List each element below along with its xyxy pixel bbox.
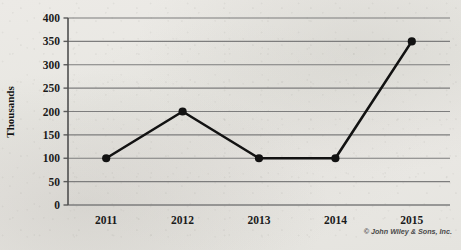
x-axis-tick-label: 2014 [324,214,347,226]
y-axis-tick-label: 50 [49,176,61,188]
y-axis-tick-label: 400 [43,12,61,24]
x-axis-tick-label: 2012 [171,214,194,226]
data-point-marker [331,154,339,162]
data-point-markers [102,37,416,162]
line-chart: 050100150200250300350400 201120122013201… [0,0,461,250]
y-axis-tick-label: 100 [43,152,61,164]
y-axis-tick-label: 350 [43,35,61,47]
data-line [106,41,412,158]
chart-page: 050100150200250300350400 201120122013201… [0,0,461,250]
x-axis-tick-label: 2011 [95,214,118,226]
x-axis-tick-labels: 20112012201320142015 [95,214,424,226]
data-point-marker [408,37,416,45]
copyright-credit: © John Wiley & Sons, Inc. [364,227,452,236]
x-axis-tick-label: 2015 [400,214,423,226]
data-point-marker [255,154,263,162]
y-axis-tick-label: 150 [43,129,61,141]
x-axis-tick-label: 2013 [248,214,271,226]
gridlines [68,18,450,205]
y-axis-tick-labels: 050100150200250300350400 [43,12,61,211]
y-axis-title: Thousands [4,86,16,138]
data-point-marker [102,154,110,162]
y-axis-tick-label: 250 [43,82,61,94]
data-point-marker [179,107,187,115]
y-axis-tick-label: 0 [54,199,60,211]
y-axis-tick-label: 200 [43,106,61,118]
y-axis-tick-label: 300 [43,59,61,71]
